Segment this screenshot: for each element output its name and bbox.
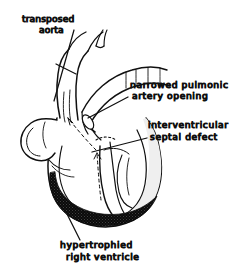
heart-diagram: transposed aorta narrowed pulmonic arter… <box>0 0 246 269</box>
label-narrowed-pulmonic-line2: artery opening <box>132 90 208 101</box>
label-hypertrophied-rv-line1: hypertrophied <box>60 239 133 250</box>
label-narrowed-pulmonic-line1: narrowed pulmonic <box>130 79 229 90</box>
label-transposed-aorta-line1: transposed <box>22 13 74 24</box>
label-septal-defect-line1: interventricular <box>148 119 229 130</box>
figure-container: transposed aorta narrowed pulmonic arter… <box>0 0 246 269</box>
label-hypertrophied-rv-line2: right ventricle <box>66 251 140 262</box>
label-transposed-aorta-line2: aorta <box>39 24 64 35</box>
label-septal-defect-line2: septal defect <box>150 131 218 142</box>
